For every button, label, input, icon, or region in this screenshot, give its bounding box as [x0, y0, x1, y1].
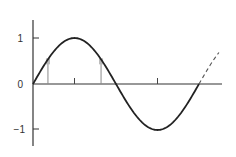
- sine-chart: 1 0 −1: [0, 0, 236, 157]
- sine-continuation-dashed: [199, 53, 219, 84]
- y-label-0: 0: [17, 79, 23, 90]
- y-label-1: 1: [17, 33, 23, 44]
- y-label-neg1: −1: [14, 124, 26, 135]
